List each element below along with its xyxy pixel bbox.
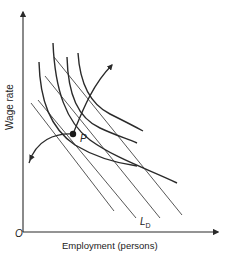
point-p (70, 131, 76, 137)
iso-curve-3 (67, 57, 137, 143)
y-axis-label: Wage rate (4, 84, 15, 130)
labour-demand-label: LD (140, 216, 151, 229)
diagram-canvas (0, 0, 226, 256)
ld-sub: D (146, 222, 151, 229)
x-axis-label: Employment (persons) (62, 240, 158, 251)
iso-curve-1 (39, 62, 137, 166)
point-p-label: P (80, 133, 87, 144)
origin-label: O (15, 228, 23, 239)
expansion-path (29, 65, 112, 163)
expansion-path-curve (29, 65, 112, 163)
demand-line-2-ld (38, 100, 136, 218)
demand-lines (31, 57, 182, 218)
